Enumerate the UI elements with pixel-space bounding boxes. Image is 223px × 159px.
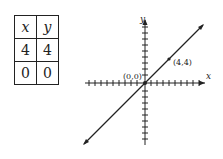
y-axis-label: y xyxy=(139,14,146,24)
point-origin xyxy=(143,81,147,85)
coordinate-graph: y x (0,0) (4,4) xyxy=(0,0,223,159)
x-arrow-icon xyxy=(199,81,205,86)
line-y-equals-x xyxy=(84,25,203,144)
point-label-4-4: (4,4) xyxy=(173,58,192,67)
x-axis-label: x xyxy=(206,71,211,81)
point-label-origin: (0,0) xyxy=(123,72,142,81)
point-4-4 xyxy=(167,57,170,60)
